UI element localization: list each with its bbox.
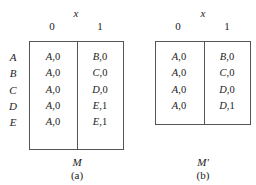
- machine-name: M': [197, 156, 209, 168]
- row-label-state: B: [10, 67, 17, 79]
- table-cell: A,0: [46, 51, 60, 63]
- machine-name: M: [72, 156, 81, 168]
- table-cell: B,0: [220, 51, 234, 63]
- row-label-state: D: [9, 100, 17, 112]
- column-header-0: 0: [49, 20, 55, 32]
- table-frame: [155, 41, 251, 125]
- table-cell: E,1: [93, 100, 107, 112]
- figure-caption: (b): [197, 169, 210, 181]
- table-cell: C,0: [93, 67, 108, 79]
- input-variable-label: x: [201, 7, 206, 19]
- table-cell: A,0: [46, 116, 60, 128]
- column-header-1: 1: [224, 20, 230, 32]
- column-divider: [204, 41, 205, 125]
- column-divider: [77, 41, 78, 150]
- column-header-0: 0: [175, 20, 181, 32]
- row-label-state: E: [10, 116, 17, 128]
- table-cell: D,0: [219, 84, 234, 96]
- input-variable-label: x: [74, 7, 79, 19]
- table-cell: A,0: [172, 51, 186, 63]
- table-cell: A,0: [46, 84, 60, 96]
- table-cell: D,1: [219, 100, 234, 112]
- table-cell: D,0: [92, 84, 107, 96]
- column-header-1: 1: [97, 20, 103, 32]
- table-cell: A,0: [172, 100, 186, 112]
- table-cell: E,1: [93, 116, 107, 128]
- table-cell: A,0: [172, 84, 186, 96]
- table-cell: A,0: [172, 67, 186, 79]
- table-cell: A,0: [46, 100, 60, 112]
- table-cell: B,0: [93, 51, 107, 63]
- row-label-state: A: [10, 51, 17, 63]
- table-cell: C,0: [220, 67, 235, 79]
- row-label-state: C: [9, 84, 16, 96]
- figure-caption: (a): [71, 169, 83, 181]
- table-cell: A,0: [46, 67, 60, 79]
